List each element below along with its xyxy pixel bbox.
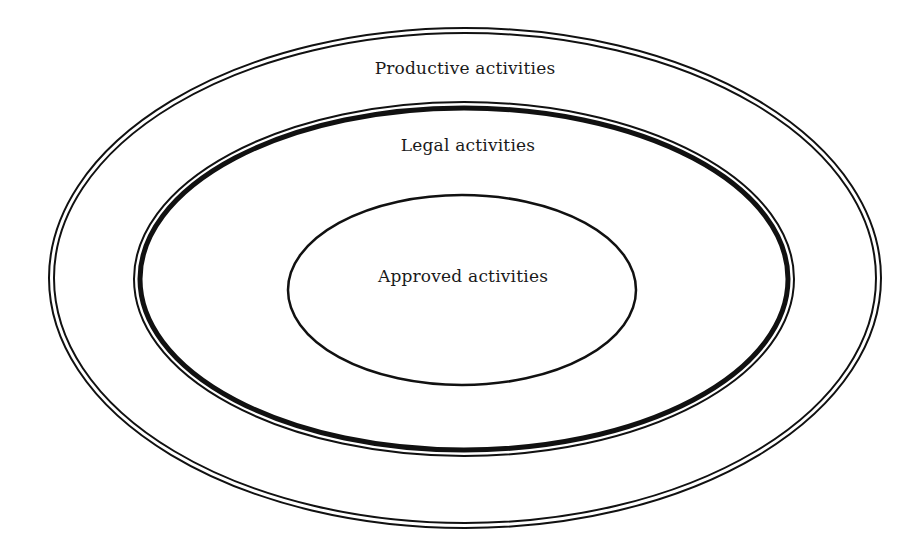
label-legal-activities: Legal activities [401,135,535,155]
label-productive-activities: Productive activities [375,58,556,78]
label-approved-activities: Approved activities [378,266,548,286]
inner-ellipse-approved [288,195,636,385]
